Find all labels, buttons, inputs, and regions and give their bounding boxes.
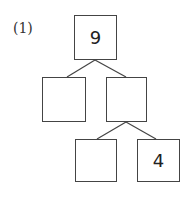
root-number-box: 9 — [74, 15, 117, 60]
bottom-left-answer-box[interactable] — [75, 139, 117, 182]
middle-right-answer-box[interactable] — [106, 77, 147, 122]
middle-left-answer-box[interactable] — [42, 77, 86, 122]
bottom-right-number-box: 4 — [137, 139, 180, 182]
